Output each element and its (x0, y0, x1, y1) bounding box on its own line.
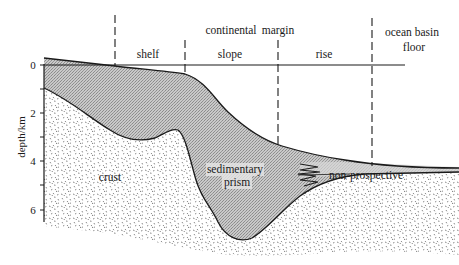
continental-margin-diagram: 0 2 4 6 depth/km shelf continental slope… (0, 0, 459, 265)
depth-axis-label: depth/km (15, 116, 27, 158)
label-margin: margin (262, 24, 295, 37)
label-floor: floor (403, 41, 426, 53)
label-prism: prism (224, 176, 250, 189)
tick-4: 4 (30, 155, 36, 167)
label-crust: crust (99, 171, 122, 183)
tick-2: 2 (30, 107, 36, 119)
label-continental: continental (205, 24, 256, 36)
label-sedimentary: sedimentary (207, 163, 263, 176)
tick-6: 6 (30, 204, 36, 216)
label-rise: rise (316, 48, 333, 60)
label-ocean-basin: ocean basin (385, 26, 439, 38)
label-non-prospective: non-prospective (329, 169, 403, 182)
label-shelf: shelf (137, 48, 160, 60)
tick-0: 0 (30, 59, 36, 71)
label-slope: slope (218, 48, 242, 61)
